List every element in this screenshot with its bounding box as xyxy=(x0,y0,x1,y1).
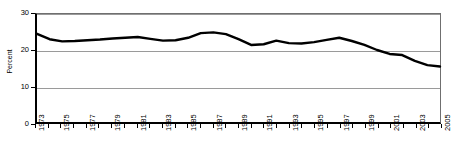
bottom-edge-strip xyxy=(0,164,461,167)
x-tick-label-1979: 1979 xyxy=(114,114,122,131)
x-tick-mark-1991 xyxy=(263,124,264,128)
x-tick-label-1983: 1983 xyxy=(165,114,173,131)
x-tick-mark-1997 xyxy=(340,124,341,128)
x-tick-label-1993: 1993 xyxy=(292,114,300,131)
y-tick-label-0: 0 xyxy=(5,120,29,128)
y-tick-label-30: 30 xyxy=(5,9,29,17)
x-tick-mark-1988 xyxy=(225,124,226,128)
data-line-series xyxy=(37,14,440,122)
x-tick-mark-2005 xyxy=(441,124,442,128)
x-tick-label-1987: 1987 xyxy=(216,114,224,131)
x-tick-mark-1986 xyxy=(200,124,201,128)
x-tick-label-1975: 1975 xyxy=(63,114,71,131)
x-tick-mark-1999 xyxy=(365,124,366,128)
line-chart: Percent 0102030 197319751977197919811983… xyxy=(0,0,461,167)
x-tick-mark-1984 xyxy=(175,124,176,128)
x-tick-mark-1994 xyxy=(301,124,302,128)
y-tick-label-20: 20 xyxy=(5,46,29,54)
series-percent-line xyxy=(37,32,440,66)
x-tick-mark-1995 xyxy=(314,124,315,128)
x-tick-mark-1993 xyxy=(289,124,290,128)
x-tick-mark-1996 xyxy=(327,124,328,128)
x-tick-mark-1987 xyxy=(213,124,214,128)
x-tick-label-2001: 2001 xyxy=(393,114,401,131)
x-tick-label-1995: 1995 xyxy=(317,114,325,131)
x-tick-mark-1978 xyxy=(98,124,99,128)
x-tick-mark-1983 xyxy=(162,124,163,128)
x-tick-mark-1975 xyxy=(60,124,61,128)
x-tick-label-1999: 1999 xyxy=(368,114,376,131)
x-tick-label-1991: 1991 xyxy=(266,114,274,131)
x-tick-mark-1976 xyxy=(73,124,74,128)
x-tick-label-1981: 1981 xyxy=(140,114,148,131)
x-tick-mark-1977 xyxy=(86,124,87,128)
x-tick-label-1989: 1989 xyxy=(241,114,249,131)
x-tick-label-1997: 1997 xyxy=(343,114,351,131)
x-tick-label-1985: 1985 xyxy=(190,114,198,131)
x-tick-mark-1980 xyxy=(124,124,125,128)
x-tick-mark-1985 xyxy=(187,124,188,128)
x-tick-mark-1974 xyxy=(48,124,49,128)
x-tick-label-1973: 1973 xyxy=(38,114,46,131)
y-tick-label-10: 10 xyxy=(5,83,29,91)
plot-area xyxy=(35,13,441,124)
x-tick-mark-1990 xyxy=(251,124,252,128)
x-tick-mark-1979 xyxy=(111,124,112,128)
x-tick-label-2005: 2005 xyxy=(444,114,452,131)
x-tick-mark-1973 xyxy=(35,124,36,128)
x-tick-mark-1989 xyxy=(238,124,239,128)
x-tick-mark-2003 xyxy=(416,124,417,128)
x-tick-label-1977: 1977 xyxy=(89,114,97,131)
x-tick-mark-1981 xyxy=(137,124,138,128)
x-tick-mark-2001 xyxy=(390,124,391,128)
x-tick-mark-1982 xyxy=(149,124,150,128)
x-tick-label-2003: 2003 xyxy=(419,114,427,131)
x-tick-mark-2002 xyxy=(403,124,404,128)
x-tick-mark-2000 xyxy=(378,124,379,128)
x-tick-mark-2004 xyxy=(428,124,429,128)
x-tick-mark-1998 xyxy=(352,124,353,128)
x-tick-mark-1992 xyxy=(276,124,277,128)
